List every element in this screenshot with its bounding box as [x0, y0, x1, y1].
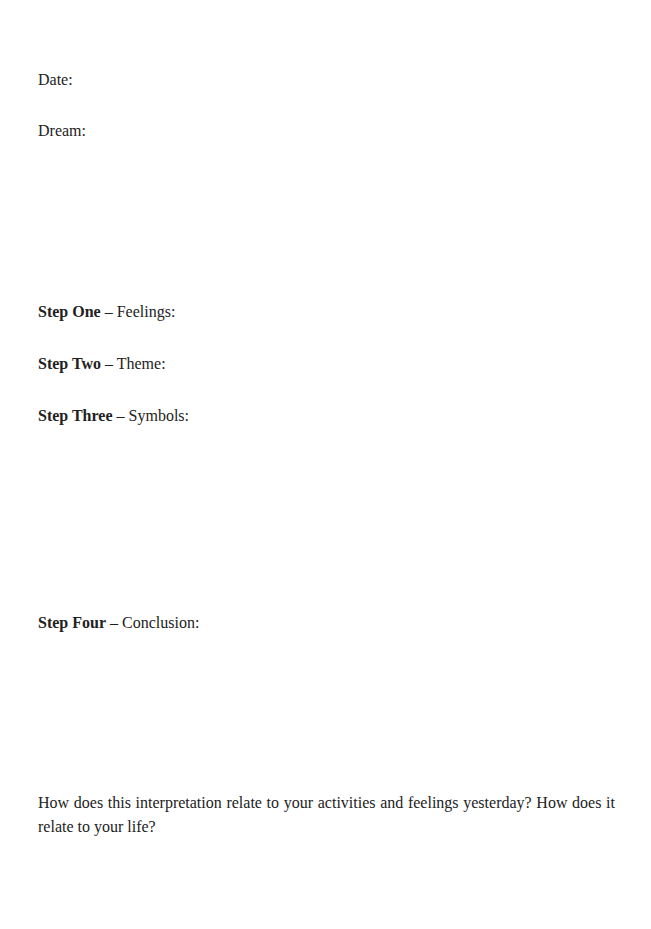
step-two-title: Step Two: [38, 355, 101, 372]
step-three-label: Symbols:: [129, 407, 189, 424]
dream-field-label: Dream:: [38, 121, 86, 141]
step-three-separator: –: [113, 407, 129, 424]
reflection-question: How does this interpretation relate to y…: [38, 791, 615, 839]
step-one-title: Step One: [38, 303, 101, 320]
step-four-label: Conclusion:: [122, 614, 199, 631]
step-one-label: Feelings:: [117, 303, 176, 320]
step-four-title: Step Four: [38, 614, 106, 631]
date-field-label: Date:: [38, 70, 73, 90]
step-four-row: Step Four – Conclusion:: [38, 613, 199, 633]
step-two-row: Step Two – Theme:: [38, 354, 166, 374]
step-one-row: Step One – Feelings:: [38, 302, 175, 322]
step-two-separator: –: [101, 355, 117, 372]
step-three-title: Step Three: [38, 407, 113, 424]
step-four-separator: –: [106, 614, 122, 631]
step-one-separator: –: [101, 303, 117, 320]
step-three-row: Step Three – Symbols:: [38, 406, 189, 426]
step-two-label: Theme:: [117, 355, 166, 372]
